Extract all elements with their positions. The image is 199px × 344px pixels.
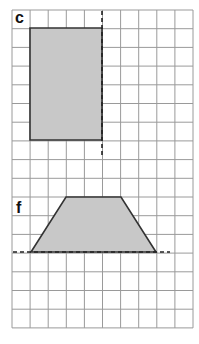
shape-f-trapezoid [31, 197, 156, 252]
grid-diagram [0, 0, 199, 344]
shape-c-rectangle [30, 28, 102, 140]
figure-label-f: f [16, 199, 21, 217]
figure-label-c: c [15, 9, 24, 27]
